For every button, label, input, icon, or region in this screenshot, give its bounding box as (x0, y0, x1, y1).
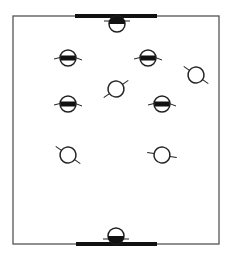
plain-player-2 (99, 74, 133, 104)
stick-icon (123, 80, 129, 84)
goalkeeper-top (104, 16, 130, 32)
stick-icon (203, 80, 209, 84)
field-boundary (13, 16, 219, 244)
team-band-icon (155, 102, 170, 107)
banded-player-1 (54, 50, 82, 66)
banded-player-4 (148, 96, 176, 112)
banded-player-2 (134, 50, 162, 66)
team-band-icon (141, 56, 156, 61)
team-band-icon (61, 102, 76, 107)
stick-icon (184, 66, 190, 70)
team-band-icon (61, 56, 76, 61)
player-circle-icon (57, 144, 79, 166)
player-circle-icon (153, 146, 172, 165)
banded-player-3 (54, 96, 82, 112)
plain-player-3 (51, 140, 85, 170)
tactical-diagram (0, 0, 228, 257)
goalkeeper-bottom (103, 228, 129, 244)
player-circle-icon (185, 64, 207, 86)
stick-icon (170, 156, 177, 157)
player-circle-icon (105, 78, 127, 100)
stick-icon (104, 94, 110, 98)
players (51, 16, 213, 244)
stick-icon (75, 160, 81, 164)
stick-icon (147, 152, 154, 153)
plain-player-1 (179, 60, 213, 90)
plain-player-4 (146, 145, 178, 166)
stick-icon (56, 146, 62, 150)
